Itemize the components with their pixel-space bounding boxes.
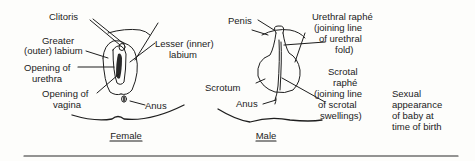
label-scrotal-raphe-line3: (joining line bbox=[314, 89, 362, 99]
label-scrotal-raphe-line1: Scrotal bbox=[328, 67, 358, 77]
label-greater-labium-line2: (outer) labium bbox=[24, 46, 83, 56]
label-female-anus: Anus bbox=[145, 101, 167, 111]
male-caption: Male bbox=[248, 131, 284, 141]
side-note-line1: Sexual bbox=[392, 89, 421, 99]
side-note-line3: of baby at bbox=[392, 111, 434, 121]
label-scrotum: Scrotum bbox=[205, 83, 240, 93]
label-urethral-raphe-line1: Urethral raphé bbox=[312, 12, 373, 22]
label-opening-urethra-line1: Opening of bbox=[24, 63, 70, 73]
side-note-line2: appearance bbox=[392, 100, 442, 110]
label-urethral-raphe-line3: of urethral bbox=[319, 34, 362, 44]
label-urethral-raphe-line4: fold) bbox=[335, 45, 353, 55]
label-opening-vagina-line1: Opening of bbox=[42, 89, 88, 99]
label-penis: Penis bbox=[228, 16, 252, 26]
label-scrotal-raphe-line2: raphé bbox=[333, 78, 357, 88]
label-urethral-raphe-line2: (joining line bbox=[314, 23, 362, 33]
label-lesser-labium-line1: Lesser (inner) bbox=[155, 39, 214, 49]
male-illustration bbox=[218, 20, 325, 141]
label-scrotal-raphe-line4: of scrotal bbox=[318, 100, 357, 110]
label-lesser-labium-line2: labium bbox=[169, 50, 197, 60]
label-scrotal-raphe-line5: swellings) bbox=[320, 111, 362, 121]
label-male-anus: Anus bbox=[236, 99, 258, 109]
label-opening-urethra-line2: urethra bbox=[32, 74, 62, 84]
female-caption: Female bbox=[106, 131, 146, 141]
label-opening-vagina-line2: vagina bbox=[53, 100, 81, 110]
side-note-line4: time of birth bbox=[392, 122, 442, 132]
label-clitoris: Clitoris bbox=[49, 12, 78, 22]
genital-development-diagram: Clitoris Greater (outer) labium Lesser (… bbox=[0, 0, 475, 161]
